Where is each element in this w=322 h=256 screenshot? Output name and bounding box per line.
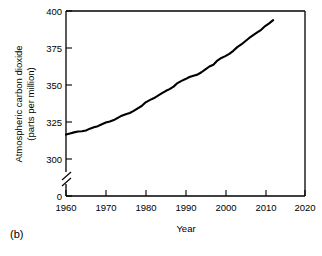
axes — [66, 11, 305, 196]
y-tick-label-0: 0 — [57, 191, 62, 202]
x-tick-label-1990: 1990 — [175, 202, 196, 213]
x-tick-label-1960: 1960 — [55, 202, 76, 213]
y-tick-label-350: 350 — [46, 80, 62, 91]
y-axis-label-line2: (parts per million) — [25, 67, 36, 140]
co2-series-line — [66, 20, 273, 134]
y-tick-label-300: 300 — [46, 154, 62, 165]
y-axis-label-line1: Atmospheric carbon dioxide — [13, 45, 24, 162]
y-axis-break-icon — [62, 172, 71, 186]
co2-chart-figure: Atmospheric carbon dioxide (parts per mi… — [0, 0, 322, 256]
x-tick-label-1980: 1980 — [135, 202, 156, 213]
y-tick-label-325: 325 — [46, 117, 62, 128]
y-axis-label: Atmospheric carbon dioxide (parts per mi… — [13, 45, 36, 162]
x-tick-label-1970: 1970 — [95, 202, 116, 213]
x-tick-label-2020: 2020 — [294, 202, 315, 213]
x-axis-ticks — [66, 190, 305, 196]
panel-label: (b) — [10, 228, 23, 240]
y-tick-label-400: 400 — [46, 6, 62, 17]
x-tick-label-2010: 2010 — [255, 202, 276, 213]
chart-svg: Atmospheric carbon dioxide (parts per mi… — [0, 0, 322, 256]
y-tick-label-375: 375 — [46, 43, 62, 54]
x-axis-label: Year — [176, 223, 195, 234]
y-axis-tick-labels: 400 375 350 325 300 0 — [46, 6, 62, 202]
x-axis-tick-labels: 1960 1970 1980 1990 2000 2010 2020 — [55, 202, 315, 213]
y-axis-ticks — [66, 11, 72, 196]
x-tick-label-2000: 2000 — [215, 202, 236, 213]
